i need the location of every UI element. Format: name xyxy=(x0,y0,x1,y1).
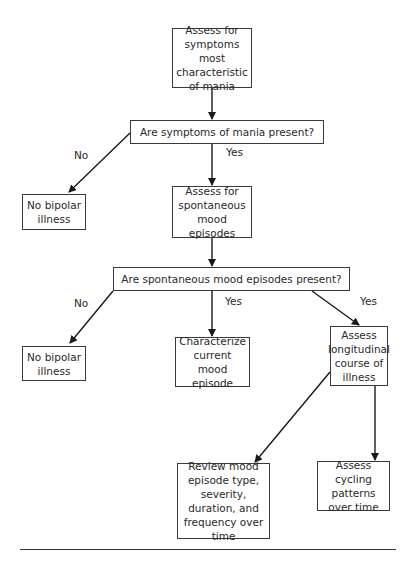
no-bipolar-node-1: No bipolar illness xyxy=(22,194,86,230)
mania-present-question: Are symptoms of mania present? xyxy=(130,120,324,144)
no-bipolar-node-2: No bipolar illness xyxy=(22,346,86,381)
mania-present-text: Are symptoms of mania present? xyxy=(140,125,314,139)
assess-mania-node: Assess for symptoms most characteristic … xyxy=(172,28,252,88)
review-episodes-text: Review mood episode type, severity, dura… xyxy=(181,459,266,543)
characterize-current-node: Characterize current mood episode xyxy=(175,337,250,387)
no-bipolar-text-2: No bipolar illness xyxy=(26,350,82,378)
edge-label-q1-yes: Yes xyxy=(226,146,243,158)
assess-longitudinal-text: Assess longitudinal course of illness xyxy=(328,328,390,384)
spontaneous-present-text: Are spontaneous mood episodes present? xyxy=(121,272,341,286)
assess-spontaneous-node: Assess for spontaneous mood episodes xyxy=(172,186,252,238)
assess-mania-text: Assess for symptoms most characteristic … xyxy=(176,23,248,93)
no-bipolar-text-1: No bipolar illness xyxy=(26,198,82,226)
review-episodes-node: Review mood episode type, severity, dura… xyxy=(177,463,270,539)
assess-spontaneous-text: Assess for spontaneous mood episodes xyxy=(176,184,248,240)
assess-cycling-text: Assess cycling patterns over time xyxy=(321,458,386,514)
edge-label-q2-no: No xyxy=(74,297,88,309)
edge-label-q2-yes-center: Yes xyxy=(225,295,242,307)
bottom-rule xyxy=(20,549,396,550)
edge-label-q2-yes-right: Yes xyxy=(360,295,377,307)
characterize-current-text: Characterize current mood episode xyxy=(179,334,246,390)
edge-label-q1-no: No xyxy=(74,149,88,161)
spontaneous-present-question: Are spontaneous mood episodes present? xyxy=(113,267,350,291)
assess-cycling-node: Assess cycling patterns over time xyxy=(317,461,390,511)
assess-longitudinal-node: Assess longitudinal course of illness xyxy=(330,326,388,386)
